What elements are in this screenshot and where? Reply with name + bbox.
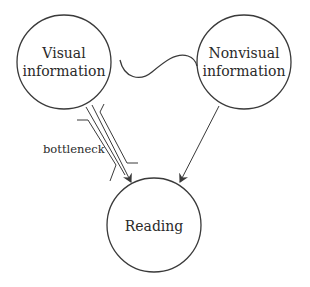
reading-diagram: Visual information Nonvisual information…	[0, 0, 310, 287]
nonvisual-circle	[197, 15, 291, 109]
nonvisual-label-line1: Nonvisual	[208, 45, 280, 61]
visual-label-line1: Visual	[41, 45, 86, 61]
wave-icon	[120, 55, 197, 77]
node-visual-information: Visual information	[17, 15, 111, 109]
visual-circle	[17, 15, 111, 109]
visual-label-line2: information	[23, 63, 106, 79]
channel-line-left	[86, 107, 125, 175]
nonvisual-label-line2: information	[203, 63, 286, 79]
reading-label: Reading	[125, 218, 184, 234]
node-nonvisual-information: Nonvisual information	[197, 15, 291, 109]
node-reading: Reading	[107, 178, 201, 272]
bottleneck-wall-right	[100, 104, 138, 163]
bottleneck-label: bottleneck	[43, 142, 106, 156]
arrow-nonvisual-to-reading	[180, 106, 219, 182]
